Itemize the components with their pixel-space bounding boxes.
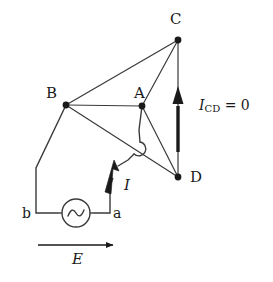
wire-feed-midsegment [118,154,134,166]
node-dot-d [175,174,182,181]
branch-bd [66,105,178,177]
terminal-label-a: a [113,206,121,220]
current-cd-equals: = 0 [220,97,250,113]
terminal-label-b: b [22,206,31,220]
wire-feed-to-node-a [139,106,142,142]
current-cd-arrow-head [173,86,184,104]
node-label-c: C [170,12,181,27]
current-arrow-i [105,160,119,194]
current-cd-symbol: I [199,97,205,113]
emf-label-e: E [72,252,83,267]
branch-ad [142,106,178,177]
current-cd-subscript: CD [205,103,221,114]
current-cd-label: ICD = 0 [199,98,250,112]
node-dot-c [175,37,182,44]
node-label-d: D [190,170,202,185]
branch-ba [66,105,142,106]
node-label-b: B [46,86,57,101]
wire-b-to-terminal-b [36,105,66,213]
node-dot-a [139,103,146,110]
circuit-schematic-canvas [0,0,273,282]
node-dot-b [63,102,70,109]
circuit-diagram-figure: A B C D a b I E ICD = 0 [0,0,273,282]
node-label-a: A [134,86,145,101]
branch-bc [66,40,178,105]
wire-crossover-hop [134,142,146,156]
current-label-i: I [124,178,130,193]
